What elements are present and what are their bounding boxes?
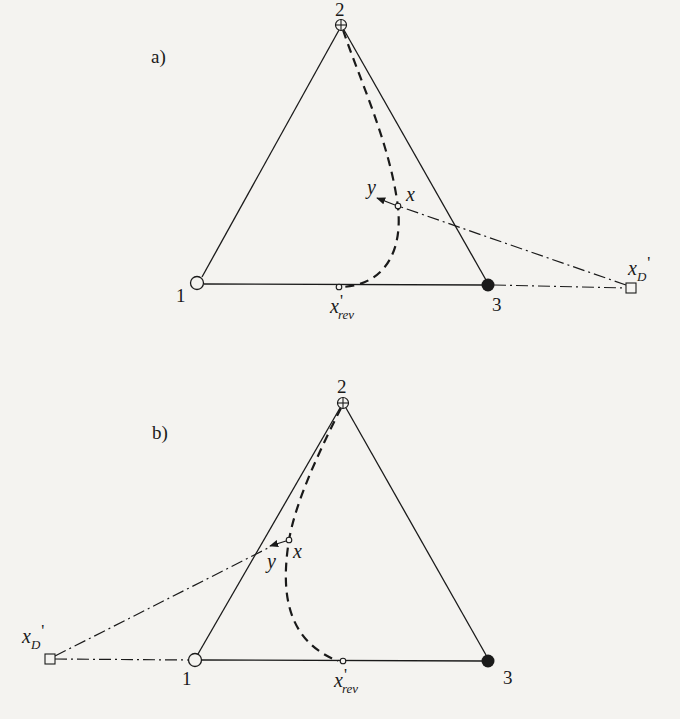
panel-b-x-label: x (293, 541, 302, 561)
panel-a-y-label: y (367, 177, 376, 197)
panel-a-vertex-1-marker (191, 277, 204, 290)
x-rev-sub: rev (342, 681, 358, 696)
panel-a-vertex-2-label: 2 (335, 0, 345, 19)
panel-b-vertex-3-label: 3 (503, 668, 513, 687)
panel-b-label: b) (152, 423, 168, 442)
panel-b-vertex-2-marker (338, 398, 349, 409)
panel-a-operating-line (401, 207, 626, 285)
panel-b-extension-line (55, 659, 188, 660)
panel-b-vertex-3-marker (482, 655, 495, 668)
panel-b-y-label: y (267, 551, 276, 571)
panel-a-vertex-3-marker (482, 279, 495, 292)
panel-a-triangle (202, 30, 486, 285)
panel-b-residue-curve (286, 408, 341, 661)
panel-a-xd-label: xD' (628, 258, 649, 278)
panel-b-x-rev-label: x'rev (334, 670, 358, 690)
panel-a-extension-line (494, 285, 626, 288)
panel-a-residue-curve (342, 30, 399, 287)
x-rev-sub: rev (338, 307, 354, 322)
panel-a-vertex-2-marker (336, 20, 347, 31)
panel-b-xd-point (45, 654, 55, 664)
panel-b-vertex-2-label: 2 (337, 377, 347, 396)
xd-sub: D (31, 637, 40, 652)
xd-main: x (22, 625, 31, 647)
panel-a-xd-point (626, 283, 636, 293)
panel-b-vertex-1-marker (189, 654, 202, 667)
panel-a-x-point (395, 203, 401, 209)
panel-b-vertex-1-label: 1 (182, 669, 192, 688)
panel-a-vertex-1-label: 1 (176, 286, 186, 305)
panel-a-x-rev-point (336, 284, 342, 290)
panel-b (45, 398, 495, 668)
panel-a-label: a) (151, 47, 166, 66)
panel-b-x-point (286, 537, 292, 543)
xd-main: x (628, 257, 637, 279)
panel-a-vertex-3-label: 3 (492, 295, 502, 314)
panel-b-x-rev-point (340, 658, 346, 664)
xd-prime: ' (41, 621, 44, 640)
panel-b-operating-line (55, 547, 270, 656)
panel-a-arrow-x-to-y (377, 198, 395, 205)
panel-b-triangle (198, 408, 486, 661)
panel-b-arrow-x-to-y (270, 541, 286, 546)
ternary-diagrams (0, 0, 680, 719)
xd-sub: D (637, 269, 646, 284)
panel-a (191, 20, 637, 294)
panel-b-xd-label: xD' (22, 626, 43, 646)
panel-a-x-rev-label: x'rev (330, 296, 354, 316)
panel-a-x-label: x (406, 184, 415, 204)
figure-page: a) 2 1 3 y x x'rev xD' b) 2 1 3 y x x're… (0, 0, 680, 719)
xd-prime: ' (647, 253, 650, 272)
